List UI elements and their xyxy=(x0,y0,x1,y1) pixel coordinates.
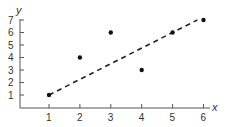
data-point xyxy=(47,93,51,97)
y-tick-label: 3 xyxy=(8,65,14,76)
y-tick-label: 7 xyxy=(8,15,14,26)
x-tick-label: 3 xyxy=(108,112,114,123)
y-tick-label: 1 xyxy=(8,90,14,101)
trend-line xyxy=(49,20,197,95)
y-ticks: 1234567 xyxy=(8,15,24,101)
data-point xyxy=(170,30,174,34)
y-tick-label: 5 xyxy=(8,40,14,51)
x-tick-label: 1 xyxy=(46,112,52,123)
data-point xyxy=(140,68,144,72)
x-ticks: 123456 xyxy=(46,104,207,123)
data-point xyxy=(78,55,82,59)
data-point xyxy=(201,18,205,22)
y-tick-label: 6 xyxy=(8,27,14,38)
data-point xyxy=(109,30,113,34)
y-axis-label: y xyxy=(15,4,23,16)
x-tick-label: 4 xyxy=(139,112,145,123)
x-tick-label: 5 xyxy=(170,112,176,123)
data-points xyxy=(47,18,206,97)
x-tick-label: 2 xyxy=(77,112,83,123)
scatter-chart: y x 1234567 123456 xyxy=(0,0,225,127)
y-tick-label: 4 xyxy=(8,52,14,63)
x-tick-label: 6 xyxy=(201,112,207,123)
x-axis-label: x xyxy=(211,101,218,113)
y-tick-label: 2 xyxy=(8,77,14,88)
